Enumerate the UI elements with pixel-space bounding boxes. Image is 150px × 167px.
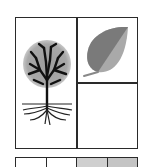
swatch-strip: [15, 157, 138, 167]
horizontal-divider: [77, 82, 138, 84]
swatch-cell: [77, 158, 108, 167]
swatch-cell: [16, 158, 47, 167]
swatch-cell: [108, 158, 138, 167]
tree-with-roots-icon: [20, 40, 74, 132]
leaf-icon: [80, 24, 132, 78]
swatch-cell: [47, 158, 78, 167]
